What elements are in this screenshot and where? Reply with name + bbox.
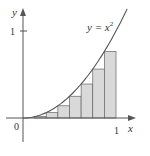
riemann-rectangle <box>81 84 93 118</box>
y-axis-label: y <box>11 6 17 18</box>
y-axis-arrow-icon <box>20 8 26 16</box>
riemann-rectangle <box>93 69 105 118</box>
x-axis-label: x <box>127 122 133 134</box>
y-tick-label: 1 <box>10 26 15 37</box>
x-axis-arrow-icon <box>128 115 136 121</box>
origin-label: 0 <box>14 121 19 132</box>
riemann-rectangle <box>70 96 82 118</box>
curve-label: y = x2 <box>86 20 114 33</box>
riemann-rectangle <box>58 106 70 118</box>
rectangles <box>35 51 116 118</box>
riemann-rectangle <box>46 113 58 118</box>
x-tick-label: 1 <box>114 125 119 136</box>
riemann-rectangle <box>104 51 116 118</box>
riemann-sum-diagram: y 1 0 1 x y = x2 <box>0 0 150 156</box>
